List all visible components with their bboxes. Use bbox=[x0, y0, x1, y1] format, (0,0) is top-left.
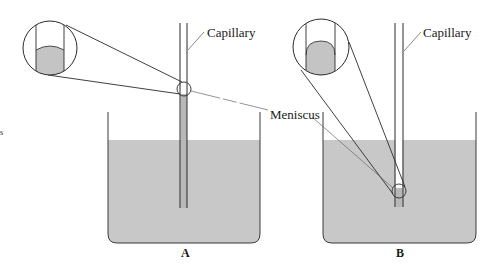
panel-b: Capillary B bbox=[280, 0, 476, 260]
capillary-a-label: Capillary bbox=[207, 25, 256, 40]
panel-a: Capillary A bbox=[0, 0, 260, 260]
capillary-a-leader bbox=[188, 32, 204, 50]
capillary-a-liquid bbox=[181, 94, 188, 208]
magnifier-a-tangent-bottom bbox=[48, 75, 180, 94]
panel-a-label: A bbox=[181, 246, 190, 260]
panel-b-label: B bbox=[396, 246, 404, 260]
capillary-diagram: Capillary A Capillary B Menis bbox=[0, 0, 491, 273]
meniscus-label: Meniscus bbox=[270, 107, 320, 122]
capillary-b-leader bbox=[404, 32, 421, 51]
capillary-b-label: Capillary bbox=[423, 25, 472, 40]
magnifier-a-tangent-top bbox=[66, 25, 182, 82]
edge-mark: s bbox=[0, 128, 3, 137]
meniscus-leader-a bbox=[191, 91, 268, 110]
magnified-view-a bbox=[0, 0, 120, 100]
capillary-b-air bbox=[396, 23, 403, 188]
